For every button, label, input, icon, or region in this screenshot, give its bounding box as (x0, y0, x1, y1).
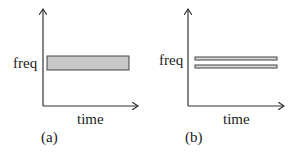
panel-caption: (b) (185, 129, 203, 146)
panel-a: freq time (a) (13, 9, 138, 146)
frequency-band (47, 56, 129, 70)
y-axis-label: freq (159, 52, 184, 68)
diagram: freq time (a) freq time (b) (0, 0, 296, 155)
frequency-band-lower (195, 65, 277, 68)
x-axis-label: time (223, 111, 250, 127)
y-axis-label: freq (13, 55, 38, 71)
frequency-band-upper (195, 57, 277, 60)
panel-b: freq time (b) (159, 9, 284, 146)
panel-caption: (a) (41, 129, 58, 146)
x-axis-label: time (77, 111, 104, 127)
